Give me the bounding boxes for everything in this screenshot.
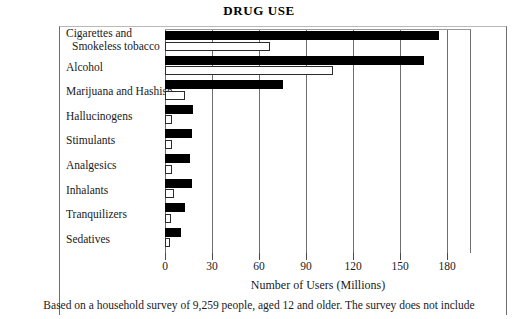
category-label-line1: Sedatives: [66, 233, 110, 245]
bar-hollow: [165, 189, 174, 198]
category-label: Inhalants: [66, 184, 108, 197]
bar-hollow: [165, 140, 172, 149]
bar-hollow: [165, 115, 172, 124]
tick-mark-180: [447, 253, 448, 260]
bar-hollow: [165, 238, 170, 247]
bar-solid: [165, 228, 181, 237]
tick-mark-0: [165, 253, 166, 260]
category-label-line1: Analgesics: [66, 159, 116, 171]
category-label-line1: Cigarettes and: [66, 27, 132, 39]
tick-mark-90: [306, 253, 307, 260]
category-label-line1: Hallucinogens: [66, 110, 132, 122]
category-label: Stimulants: [66, 134, 115, 147]
tick-label-150: 150: [380, 260, 420, 272]
category-label: Marijuana and Hashish: [66, 85, 173, 98]
category-label: Hallucinogens: [66, 110, 132, 123]
category-label-line1: Marijuana and Hashish: [66, 85, 173, 97]
category-label-line1: Inhalants: [66, 184, 108, 196]
chart-title: DRUG USE: [0, 3, 518, 19]
x-axis-title: Number of Users (Millions): [165, 278, 471, 293]
bar-solid: [165, 105, 193, 114]
gridline-180: [447, 30, 448, 254]
tick-mark-120: [353, 253, 354, 260]
tick-label-0: 0: [145, 260, 185, 272]
category-label: Sedatives: [66, 233, 110, 246]
bar-hollow: [165, 66, 333, 75]
tick-label-30: 30: [192, 260, 232, 272]
bar-solid: [165, 80, 283, 89]
tick-mark-30: [212, 253, 213, 260]
tick-label-90: 90: [286, 260, 326, 272]
bar-hollow: [165, 165, 172, 174]
category-label-line1: Alcohol: [66, 61, 103, 73]
category-label-line1: Stimulants: [66, 134, 115, 146]
bar-solid: [165, 179, 192, 188]
bar-solid: [165, 154, 190, 163]
category-label-line1: Tranquilizers: [66, 208, 127, 220]
bar-solid: [165, 56, 424, 65]
tick-mark-150: [400, 253, 401, 260]
bar-hollow: [165, 42, 270, 51]
tick-label-120: 120: [333, 260, 373, 272]
chart-caption: Based on a household survey of 9,259 peo…: [0, 299, 518, 311]
bar-hollow: [165, 91, 185, 100]
chart-figure: DRUG USE Cigarettes andSmokeless tobacco…: [0, 0, 518, 319]
category-label: Alcohol: [66, 61, 103, 74]
category-label-line2: Smokeless tobacco: [66, 40, 160, 53]
category-label: Tranquilizers: [66, 208, 127, 221]
category-label: Cigarettes andSmokeless tobacco: [66, 27, 160, 53]
bar-solid: [165, 203, 185, 212]
category-label: Analgesics: [66, 159, 116, 172]
bar-solid: [165, 31, 439, 40]
bar-solid: [165, 129, 192, 138]
bar-hollow: [165, 214, 171, 223]
tick-label-180: 180: [427, 260, 467, 272]
tick-label-60: 60: [239, 260, 279, 272]
tick-mark-60: [259, 253, 260, 260]
